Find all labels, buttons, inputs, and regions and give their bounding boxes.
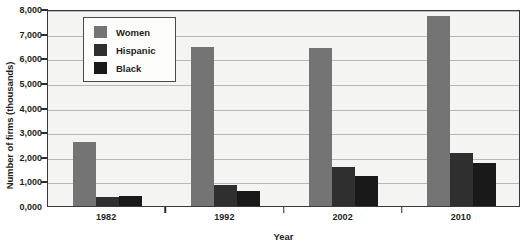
bar-black-1992 [237, 191, 260, 206]
legend-label-black: Black [116, 63, 141, 74]
x-tick-label-1982: 1982 [96, 212, 116, 222]
legend-item: Hispanic [94, 41, 175, 59]
y-tick-label: 2,000 [0, 153, 42, 163]
bar-chart-figure: Number of firms (thousands) 0,0001,0002,… [0, 0, 526, 251]
legend-swatch-black-icon [94, 62, 107, 74]
bar-black-2002 [355, 176, 378, 206]
y-tick-label: 8,000 [0, 5, 42, 15]
x-tick-label-2002: 2002 [333, 212, 353, 222]
y-tick-label: 0,000 [0, 202, 42, 212]
legend-item: Women [94, 23, 175, 41]
x-axis-title: Year [47, 231, 520, 242]
x-tick-label-2010: 2010 [451, 212, 471, 222]
x-tick-mark [283, 207, 285, 213]
bar-black-1982 [119, 196, 142, 206]
gridline [48, 11, 519, 12]
x-tick-mark [401, 207, 403, 213]
y-tick-label: 7,000 [0, 30, 42, 40]
y-tick-label: 4,000 [0, 104, 42, 114]
bar-women-2002 [309, 48, 332, 206]
bar-hispanic-1992 [214, 185, 237, 206]
x-tick-mark [165, 207, 167, 213]
bar-hispanic-2002 [332, 167, 355, 206]
y-tick-label: 3,000 [0, 128, 42, 138]
bar-women-2010 [427, 16, 450, 206]
bar-black-2010 [473, 163, 496, 206]
bar-hispanic-1982 [96, 197, 119, 206]
y-tick-label: 6,000 [0, 54, 42, 64]
y-tick-label: 5,000 [0, 79, 42, 89]
legend-swatch-women-icon [94, 26, 107, 38]
bar-hispanic-2010 [450, 153, 473, 206]
legend: Women Hispanic Black [83, 17, 176, 82]
bar-women-1992 [191, 47, 214, 206]
legend-item: Black [94, 59, 175, 77]
legend-swatch-hispanic-icon [94, 44, 107, 56]
bar-women-1982 [73, 142, 96, 206]
legend-label-women: Women [116, 27, 150, 38]
y-tick-label: 1,000 [0, 177, 42, 187]
x-tick-label-1992: 1992 [214, 212, 234, 222]
legend-label-hispanic: Hispanic [116, 45, 156, 56]
